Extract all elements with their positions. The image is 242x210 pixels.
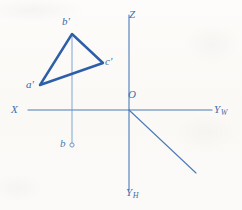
point-b-marker xyxy=(70,143,74,147)
diagonal-axis-line xyxy=(129,110,196,173)
triangle-shape xyxy=(40,34,103,85)
vertex-label-a-prime: a' xyxy=(26,78,34,90)
origin-label: O xyxy=(128,88,136,100)
axis-label-x: X xyxy=(11,103,18,115)
axis-label-x-text: X xyxy=(11,103,18,115)
point-label-b: b xyxy=(60,137,66,149)
axis-label-yh-subscript: H xyxy=(132,191,138,200)
figure-canvas: a' b' c' b O X YW Z YH xyxy=(0,0,242,210)
axis-label-yh: YH xyxy=(126,186,139,200)
axis-label-z-text: Z xyxy=(129,8,135,20)
axis-label-z: Z xyxy=(129,8,135,20)
axis-label-yw: YW xyxy=(214,103,228,117)
vertex-label-c-prime: c' xyxy=(105,55,112,67)
projection-diagram xyxy=(0,0,242,210)
vertex-label-b-prime: b' xyxy=(62,15,70,27)
axis-label-yw-subscript: W xyxy=(220,108,227,117)
